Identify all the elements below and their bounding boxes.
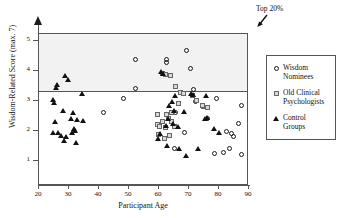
y-axis-tick-label: 1 bbox=[4, 156, 30, 163]
x-axis-tick-label: 70 bbox=[178, 190, 198, 198]
data-point-square bbox=[157, 124, 162, 129]
data-point-circle bbox=[227, 146, 232, 151]
y-axis-tick bbox=[33, 100, 38, 101]
y-axis-tick-label: 2 bbox=[4, 126, 30, 133]
data-point-square bbox=[205, 105, 210, 110]
y-axis-tick-label: 3 bbox=[4, 96, 30, 103]
square-marker-icon bbox=[271, 91, 281, 96]
y-axis-tick bbox=[33, 160, 38, 161]
y-axis-tick-label: 4 bbox=[4, 66, 30, 73]
legend-item-triangle[interactable]: ControlGroups bbox=[271, 114, 306, 131]
data-point-square bbox=[194, 98, 199, 103]
data-point-square bbox=[176, 101, 181, 106]
data-point-triangle bbox=[176, 146, 182, 151]
data-point-square bbox=[162, 136, 167, 141]
data-point-triangle bbox=[195, 146, 201, 151]
y-axis-tick bbox=[33, 70, 38, 71]
data-point-circle bbox=[236, 121, 241, 126]
data-point-triangle bbox=[51, 100, 57, 105]
data-point-triangle bbox=[70, 110, 76, 115]
data-point-triangle bbox=[79, 91, 85, 96]
top-20-percent-annotation: Top 20% bbox=[256, 5, 283, 13]
data-point-triangle bbox=[155, 136, 161, 141]
x-axis-tick-label: 60 bbox=[148, 190, 168, 198]
top-20-percent-band bbox=[39, 34, 247, 91]
data-point-circle bbox=[182, 130, 187, 135]
legend-item-label: ControlGroups bbox=[283, 114, 306, 131]
x-axis-tick bbox=[98, 185, 99, 189]
legend-item-circle[interactable]: WisdomNominees bbox=[271, 64, 313, 81]
x-axis-tick bbox=[128, 185, 129, 189]
y-axis-tick bbox=[33, 40, 38, 41]
data-point-triangle bbox=[172, 93, 178, 98]
data-point-triangle bbox=[65, 77, 71, 82]
data-point-triangle bbox=[190, 92, 196, 97]
data-point-circle bbox=[239, 152, 244, 157]
data-point-triangle bbox=[163, 123, 169, 128]
x-axis-tick bbox=[188, 185, 189, 189]
triangle-marker-icon bbox=[271, 116, 281, 121]
data-point-triangle bbox=[73, 140, 79, 145]
x-axis-title: Participant Age bbox=[38, 201, 248, 210]
data-point-square bbox=[181, 91, 186, 96]
data-point-circle bbox=[212, 151, 217, 156]
y-axis-tick bbox=[33, 130, 38, 131]
data-point-triangle bbox=[183, 153, 189, 158]
data-point-triangle bbox=[50, 130, 56, 135]
y-axis-arrow-icon bbox=[34, 16, 42, 25]
data-point-circle bbox=[231, 134, 236, 139]
data-point-circle bbox=[101, 110, 106, 115]
x-axis-tick-label: 20 bbox=[28, 190, 48, 198]
x-axis-tick-label: 50 bbox=[118, 190, 138, 198]
legend-item-label: Old ClinicalPsychologists bbox=[283, 89, 324, 106]
legend: WisdomNomineesOld ClinicalPsychologistsC… bbox=[266, 55, 336, 140]
data-point-triangle bbox=[53, 85, 59, 90]
data-point-circle bbox=[184, 48, 189, 53]
data-point-triangle bbox=[61, 138, 67, 143]
data-point-circle bbox=[221, 150, 226, 155]
x-axis-tick bbox=[68, 185, 69, 189]
x-axis-tick-label: 40 bbox=[88, 190, 108, 198]
data-point-triangle bbox=[60, 108, 66, 113]
data-point-triangle bbox=[69, 130, 75, 135]
data-point-triangle bbox=[160, 71, 166, 76]
data-point-square bbox=[167, 133, 172, 138]
circle-marker-icon bbox=[271, 66, 281, 71]
data-point-triangle bbox=[164, 143, 170, 148]
data-point-square bbox=[155, 112, 160, 117]
chart-root: Top 20% Wisdom-Related Score (max. 7) Pa… bbox=[0, 0, 342, 218]
data-point-circle bbox=[239, 103, 244, 108]
x-axis-tick bbox=[218, 185, 219, 189]
annotation-arrow-icon bbox=[255, 14, 269, 28]
y-axis-tick-label: 5 bbox=[4, 36, 30, 43]
data-point-triangle bbox=[202, 116, 208, 121]
x-axis-tick bbox=[38, 185, 39, 189]
x-axis-tick bbox=[158, 185, 159, 189]
threshold-line bbox=[39, 91, 247, 92]
data-point-triangle bbox=[68, 116, 74, 121]
data-point-square bbox=[173, 84, 178, 89]
x-axis-tick bbox=[248, 185, 249, 189]
data-point-triangle bbox=[175, 124, 181, 129]
data-point-triangle bbox=[171, 108, 177, 113]
data-point-triangle bbox=[216, 130, 222, 135]
legend-item-label: WisdomNominees bbox=[283, 64, 313, 81]
legend-item-square[interactable]: Old ClinicalPsychologists bbox=[271, 89, 324, 106]
data-point-circle bbox=[214, 96, 219, 101]
plot-area bbox=[38, 33, 248, 185]
data-point-triangle bbox=[181, 109, 187, 114]
data-point-square bbox=[168, 73, 173, 78]
data-point-circle bbox=[121, 96, 126, 101]
x-axis-tick-label: 30 bbox=[58, 190, 78, 198]
x-axis-tick-label: 80 bbox=[208, 190, 228, 198]
x-axis-tick-label: 90 bbox=[238, 190, 258, 198]
data-point-triangle bbox=[203, 93, 209, 98]
data-point-triangle bbox=[80, 118, 86, 123]
data-point-circle bbox=[164, 60, 169, 65]
data-point-triangle bbox=[52, 119, 58, 124]
